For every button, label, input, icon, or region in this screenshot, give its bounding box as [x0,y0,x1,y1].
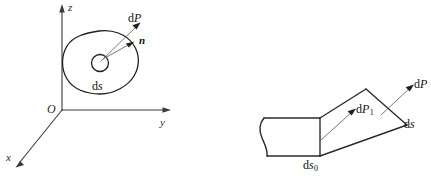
ds0-label-var: s [309,158,314,172]
ds-label: ds [92,80,103,92]
figure-canvas [0,0,431,180]
ds-label-var: s [98,79,103,93]
ds0-label-sub: 0 [314,164,318,173]
dP-label-var: P [134,11,141,25]
origin-label: O [47,103,56,115]
x-axis-arrowhead [16,161,25,168]
normal-vector-label: n [139,35,145,46]
dP1-vector-group [321,109,356,141]
ds0-label: ds0 [303,159,318,173]
y-axis-label: y [160,117,165,128]
dP-outer-vector-shaft [381,88,410,115]
dP-outer-vector-group [381,85,414,116]
ds-slant-label-var: s [410,117,415,131]
dP1-label-sub: 1 [370,108,374,117]
x-axis-label: x [6,152,11,163]
z-axis-arrowhead [59,4,65,13]
dP-label: dP [128,12,141,24]
y-axis-arrowhead [163,107,172,113]
body-wedge-group [260,89,407,156]
x-axis-line [20,110,62,162]
dP1-label-var: P [362,102,369,116]
z-axis-label: z [68,2,72,13]
dP1-vector-shaft [321,112,352,140]
dP-outer-label-var: P [420,77,427,91]
figure-root: z y x O dP n ds dP1 dP ds ds0 [0,0,431,180]
dP-vector-group [101,23,141,62]
torn-left-edge [260,118,267,156]
dP-outer-label: dP [414,78,427,90]
ds-slant-label: ds [404,118,415,130]
dP1-label: dP1 [356,103,374,117]
